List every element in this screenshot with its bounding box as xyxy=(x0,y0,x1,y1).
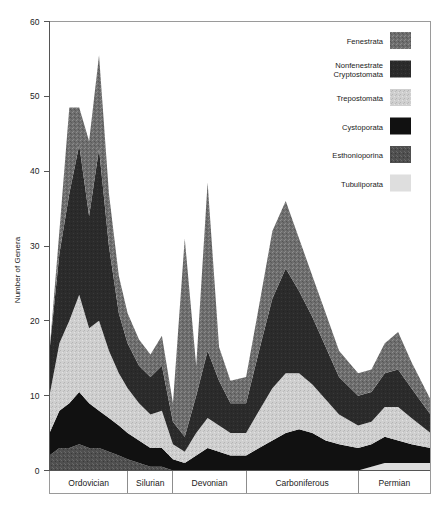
legend-swatch-esthonioporina xyxy=(390,146,411,163)
period-label-silurian: Silurian xyxy=(136,478,165,488)
legend-swatch-trepostomata xyxy=(390,89,411,106)
stacked-area-chart: 0102030405060 OrdovicianSilurianDevonian… xyxy=(0,0,438,510)
period-label-ordovician: Ordovician xyxy=(68,478,109,488)
legend-label-esthonioporina: Esthonioporina xyxy=(332,151,383,160)
period-label-permian: Permian xyxy=(378,478,410,488)
y-tick-group: 0102030405060 xyxy=(30,17,49,476)
y-tick-label: 10 xyxy=(30,391,40,401)
y-tick-label: 0 xyxy=(35,466,40,476)
figure-container: 0102030405060 OrdovicianSilurianDevonian… xyxy=(0,0,438,510)
legend-label-cystoporata: Cystoporata xyxy=(342,123,384,132)
legend-label-line2: Cryptostomata xyxy=(334,70,384,79)
legend-label-fenestrata: Fenestrata xyxy=(347,37,384,46)
y-tick-label: 30 xyxy=(30,241,40,251)
legend-swatch-tubuliporata xyxy=(390,175,411,192)
legend: FenestrataNonfenestrateCryptostomataTrep… xyxy=(332,32,411,192)
period-label-carboniferous: Carboniferous xyxy=(275,478,328,488)
y-tick-label: 50 xyxy=(30,91,40,101)
y-tick-label: 20 xyxy=(30,316,40,326)
y-axis-title: Number of Genera xyxy=(13,236,22,303)
y-axis: 0102030405060 xyxy=(30,17,49,476)
period-label-devonian: Devonian xyxy=(192,478,228,488)
plot-areas xyxy=(50,55,431,470)
legend-swatch-nonfenestrate xyxy=(390,61,411,78)
legend-label-trepostomata: Trepostomata xyxy=(336,94,383,103)
legend-swatch-cystoporata xyxy=(390,118,411,135)
legend-swatch-fenestrata xyxy=(390,32,411,49)
legend-label-tubuliporata: Tubuliporata xyxy=(341,180,384,189)
legend-label-line1: Nonfenestrate xyxy=(335,61,383,70)
x-axis: OrdovicianSilurianDevonianCarboniferousP… xyxy=(50,471,431,494)
y-tick-label: 40 xyxy=(30,166,40,176)
y-tick-label: 60 xyxy=(30,17,40,27)
period-band-group: OrdovicianSilurianDevonianCarboniferousP… xyxy=(68,471,410,494)
